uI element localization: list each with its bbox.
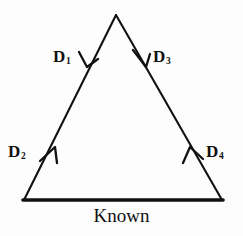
distance-label-d3: D3 [153, 48, 170, 65]
distance-label-d4-subscript: 4 [219, 151, 224, 161]
distance-label-d2-text: D [8, 142, 20, 161]
distance-label-d3-text: D [153, 47, 165, 66]
distance-label-d1-text: D [53, 47, 65, 66]
distance-label-d2-subscript: 2 [21, 151, 26, 161]
distance-label-d1: D1 [53, 48, 70, 65]
distance-label-d1-subscript: 1 [66, 56, 71, 66]
arrowhead-d1-down-icon [79, 52, 98, 67]
distance-label-d4-text: D [206, 142, 218, 161]
triangle-diagram-svg [0, 0, 243, 236]
distance-label-d2: D2 [8, 143, 25, 160]
distance-label-d3-subscript: 3 [166, 56, 171, 66]
triangle-left-edge [24, 15, 116, 200]
triangle-traverse-figure: D1 D3 D2 D4 Known [0, 0, 243, 236]
known-baseline-label: Known [0, 206, 243, 226]
distance-label-d4: D4 [206, 143, 223, 160]
triangle-right-edge [116, 15, 222, 200]
